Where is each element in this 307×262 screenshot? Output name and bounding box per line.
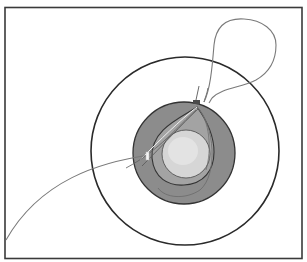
top-knot-marker (193, 100, 200, 104)
pupil-highlight (168, 137, 198, 165)
eye-suture-illustration (0, 0, 307, 262)
left-marker (146, 152, 149, 160)
